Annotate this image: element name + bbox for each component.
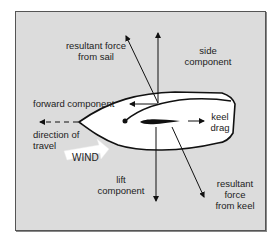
label-lift-component: lift component <box>96 174 146 196</box>
label-resultant-keel: resultant force from keel <box>207 178 263 211</box>
mast-dot <box>123 119 128 124</box>
label-resultant-sail: resultant force from sail <box>57 40 135 62</box>
label-direction-of-travel: direction of travel <box>33 129 79 151</box>
label-keel-drag: keel drag <box>205 111 235 133</box>
label-forward-component: forward component <box>33 98 114 109</box>
label-wind: WIND <box>72 152 99 163</box>
label-side-component: side component <box>178 45 238 67</box>
